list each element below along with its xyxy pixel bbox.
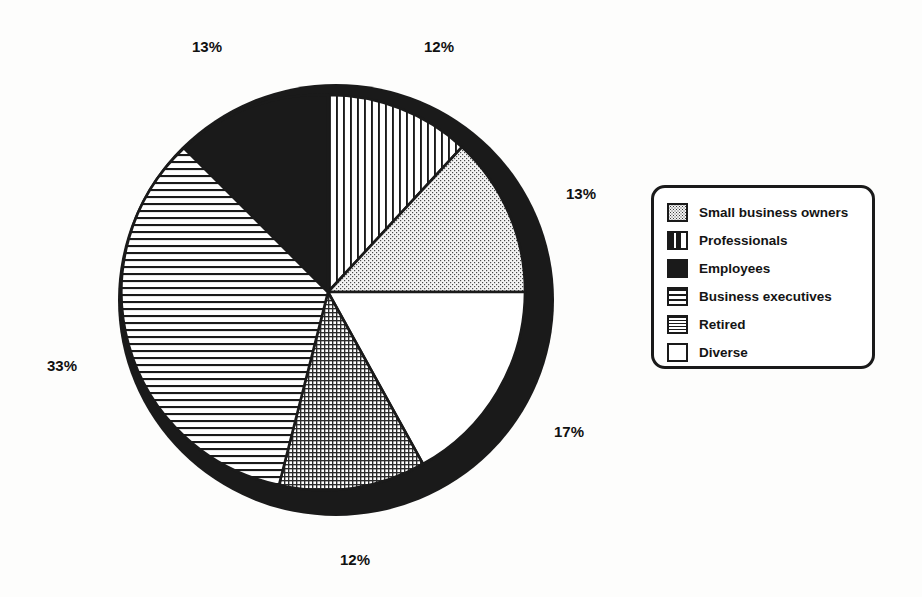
legend-label-professionals: Professionals [699,234,788,248]
legend-swatch-solid-black-icon [667,259,688,278]
legend-label-employees: Employees [699,262,770,276]
label-business-executives: 33% [47,357,77,374]
legend-swatch-stipple-icon [667,203,688,222]
legend-item-diverse[interactable]: Diverse [667,339,872,366]
legend-swatch-horizontal-lines-icon [667,287,688,306]
legend-swatch-cross-hatch-icon [667,315,688,334]
legend-item-retired[interactable]: Retired [667,311,872,338]
legend-item-business-executives[interactable]: Business executives [667,283,872,310]
legend-item-employees[interactable]: Employees [667,255,872,282]
label-employees: 13% [192,38,222,55]
legend-label-business-executives: Business executives [699,290,832,304]
legend-label-small-business-owners: Small business owners [699,206,848,220]
legend-item-professionals[interactable]: Professionals [667,227,872,254]
legend-swatch-vertical-lines-icon [667,231,688,250]
label-diverse: 17% [554,423,584,440]
legend-label-retired: Retired [699,318,746,332]
legend-item-small-business-owners[interactable]: Small business owners [667,199,872,226]
chart-legend: Small business owners Professionals Empl… [651,185,875,369]
label-retired: 12% [340,551,370,568]
label-small-business-owners: 13% [566,185,596,202]
pie-slices [121,95,525,491]
label-professionals: 12% [424,38,454,55]
legend-swatch-white-icon [667,343,688,362]
legend-label-diverse: Diverse [699,346,748,360]
